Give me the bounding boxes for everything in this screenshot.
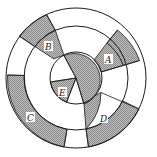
ring-diagram-svg: B A E C D xyxy=(0,0,157,157)
label-d: D xyxy=(99,113,108,124)
svg-text:A: A xyxy=(104,55,112,65)
label-c: C xyxy=(26,112,35,123)
label-b: B xyxy=(44,41,53,52)
label-a: A xyxy=(104,54,113,65)
ring-diagram: B A E C D xyxy=(0,0,157,157)
svg-text:D: D xyxy=(99,114,107,124)
label-e: E xyxy=(58,87,67,98)
svg-text:E: E xyxy=(58,88,66,98)
svg-text:C: C xyxy=(27,113,34,123)
divider xyxy=(8,75,25,76)
svg-text:B: B xyxy=(44,42,52,52)
